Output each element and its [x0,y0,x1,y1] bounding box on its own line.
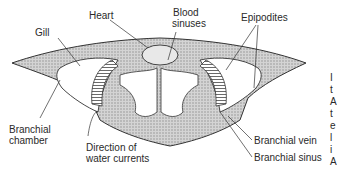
label-direction-1: Direction of [86,142,137,153]
label-heart: Heart [89,10,113,21]
label-blood-sinuses-1: Blood [173,7,199,18]
label-branchial-chamber-1: Branchial [9,124,51,135]
label-blood-sinuses-2: sinuses [172,18,206,29]
label-branchial-chamber-2: chamber [9,135,48,146]
label-epipodites: Epipodites [241,12,288,23]
heart-shape [142,45,178,65]
cropped-edge-text: I t A t e l i A [330,72,336,168]
label-branchial-sinus: Branchial sinus [254,152,322,163]
label-direction-2: water currents [86,153,149,164]
label-gill: Gill [35,27,49,38]
label-branchial-vein: Branchial vein [254,135,317,146]
